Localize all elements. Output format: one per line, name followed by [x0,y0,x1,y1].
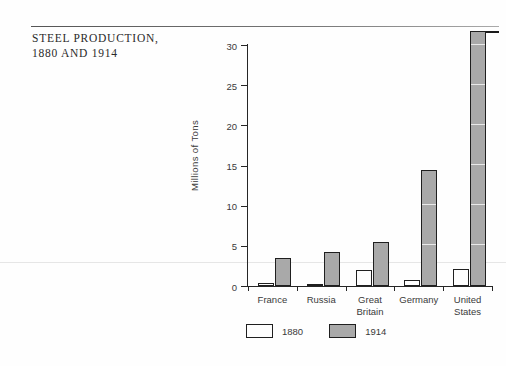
y-tick-mark [241,125,247,126]
x-tick-mark [346,286,347,291]
y-tick-mark [241,246,247,247]
bar-chart: Millions of Tons 051015202530 FranceRuss… [196,30,496,360]
legend-label-1880: 1880 [282,326,303,337]
y-tick-label: 0 [232,281,237,292]
bar-scan-seam [471,244,485,245]
legend-label-1914: 1914 [365,326,386,337]
y-tick: 10 [241,206,247,207]
bar-scan-seam [471,164,485,165]
y-tick-mark [241,85,247,86]
y-tick: 25 [241,85,247,86]
y-tick-label: 25 [226,80,237,91]
bar-1880-germany [404,280,420,286]
y-tick-label: 20 [226,120,237,131]
x-category-label: Great Britain [346,294,395,317]
bar-1880-great-britain [356,270,372,286]
bar-scan-seam [422,204,436,205]
y-tick-mark [241,286,247,287]
bar-scan-seam [422,244,436,245]
bar-1914-france [275,258,291,286]
bar-scan-seam [471,84,485,85]
legend-swatch-1914 [329,324,356,338]
figure-caption: STEEL PRODUCTION, 1880 AND 1914 [32,31,212,61]
bar-scan-seam [471,124,485,125]
legend: 18801914 [246,324,386,338]
x-tick-mark [248,286,249,291]
bar-1880-russia [307,284,323,286]
legend-item-1880: 1880 [246,324,303,338]
y-tick-label: 30 [226,40,237,51]
bar-1914-germany [421,170,437,286]
bar-1914-great-britain [373,242,389,286]
bar-scan-seam [471,204,485,205]
y-tick: 5 [241,246,247,247]
x-category-label: Germany [394,294,443,306]
legend-swatch-1880 [246,324,273,338]
x-tick-mark [297,286,298,291]
y-tick-label: 10 [226,201,237,212]
x-tick-mark [492,286,493,291]
x-tick-mark [443,286,444,291]
y-tick-label: 15 [226,161,237,172]
y-tick-mark [241,206,247,207]
x-category-label: Russia [297,294,346,306]
legend-item-1914: 1914 [329,324,386,338]
bar-1914-united-states [470,31,486,286]
x-category-label: France [248,294,297,306]
x-category-label: United States [443,294,492,317]
y-tick-label: 5 [232,241,237,252]
x-axis-spine [247,286,492,287]
y-tick: 0 [241,286,247,287]
y-tick-mark [241,166,247,167]
bar-scan-seam [471,44,485,45]
bar-1880-france [258,283,274,286]
scanned-chart-page: STEEL PRODUCTION, 1880 AND 1914 Millions… [0,0,506,366]
x-tick-mark [394,286,395,291]
y-tick: 15 [241,166,247,167]
caption-line-2: 1880 AND 1914 [32,46,212,61]
y-tick-mark [241,45,247,46]
caption-line-1: STEEL PRODUCTION, [32,31,212,46]
bar-1880-united-states [453,269,469,286]
y-axis-label: Millions of Tons [189,120,200,191]
bar-1914-russia [324,252,340,286]
y-tick: 20 [241,125,247,126]
page-top-rule [31,26,499,27]
plot-area [248,45,492,286]
y-tick: 30 [241,45,247,46]
